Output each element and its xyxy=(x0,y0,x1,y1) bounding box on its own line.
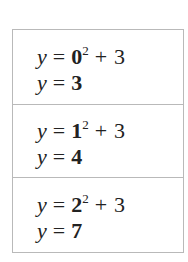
result-line: y=4 xyxy=(37,146,82,168)
table-row: y=12+3 y=4 xyxy=(13,104,183,177)
evaluation-table: y=02+3 y=3 y=12+3 y=4 y=22+3 y=7 xyxy=(12,29,184,253)
table-row: y=22+3 y=7 xyxy=(13,177,183,252)
equation-line: y=02+3 xyxy=(37,44,125,68)
variable: y xyxy=(37,44,47,69)
result-value: 4 xyxy=(71,144,82,169)
constant: 3 xyxy=(114,192,125,217)
result-value: 7 xyxy=(71,218,82,243)
equation-line: y=22+3 xyxy=(37,192,125,216)
variable: y xyxy=(37,144,47,169)
equals-sign: = xyxy=(53,44,65,69)
equals-sign: = xyxy=(53,192,65,217)
result-line: y=7 xyxy=(37,220,82,242)
equals-sign: = xyxy=(53,218,65,243)
result-value: 3 xyxy=(71,70,82,95)
equals-sign: = xyxy=(53,70,65,95)
equals-sign: = xyxy=(53,118,65,143)
exponent: 2 xyxy=(82,117,89,132)
variable: y xyxy=(37,118,47,143)
variable: y xyxy=(37,192,47,217)
plus-sign: + xyxy=(95,44,107,69)
plus-sign: + xyxy=(95,118,107,143)
exponent: 2 xyxy=(82,191,89,206)
exponent: 2 xyxy=(82,43,89,58)
equation-line: y=12+3 xyxy=(37,118,125,142)
variable: y xyxy=(37,70,47,95)
constant: 3 xyxy=(114,44,125,69)
plus-sign: + xyxy=(95,192,107,217)
table-row: y=02+3 y=3 xyxy=(13,30,183,104)
equals-sign: = xyxy=(53,144,65,169)
result-line: y=3 xyxy=(37,72,82,94)
base-value: 0 xyxy=(71,44,82,69)
constant: 3 xyxy=(114,118,125,143)
base-value: 2 xyxy=(71,192,82,217)
base-value: 1 xyxy=(71,118,82,143)
variable: y xyxy=(37,218,47,243)
